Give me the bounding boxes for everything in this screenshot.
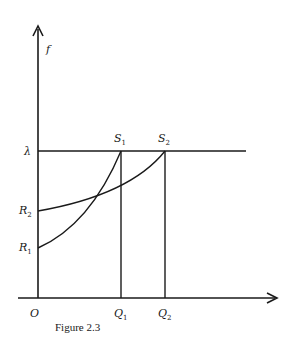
label-s1-sub: 1	[122, 139, 126, 147]
lambda-label: λ	[24, 146, 31, 157]
label-s1: S1	[114, 133, 126, 147]
figure-caption: Figure 2.3	[55, 321, 100, 333]
label-s1-main: S	[114, 132, 122, 145]
label-r1-sub: 1	[27, 248, 31, 256]
label-s2: S2	[158, 133, 170, 147]
curve-r2-s2	[38, 151, 165, 211]
diagram-canvas	[0, 0, 291, 349]
label-r2-sub: 2	[27, 211, 31, 219]
label-q1-main: Q	[114, 307, 123, 320]
label-s2-main: S	[158, 132, 166, 145]
label-q1: Q1	[114, 308, 128, 322]
label-q2-main: Q	[158, 307, 167, 320]
label-r1: R1	[19, 242, 32, 256]
origin-label: O	[30, 308, 39, 319]
label-r2: R2	[19, 205, 32, 219]
label-s2-sub: 2	[166, 139, 170, 147]
y-axis-label: f	[46, 44, 50, 55]
curve-r1-s1	[38, 151, 121, 248]
label-q1-sub: 1	[123, 314, 127, 322]
label-q2-sub: 2	[167, 314, 171, 322]
label-q2: Q2	[158, 308, 172, 322]
